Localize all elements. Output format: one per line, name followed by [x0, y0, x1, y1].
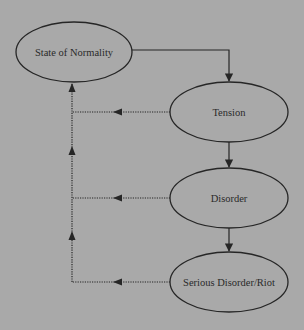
edge-normality-to-tension	[132, 50, 229, 81]
node-state-of-normality: State of Normality	[16, 22, 132, 82]
arrow-up-icon	[69, 146, 76, 155]
node-disorder: Disorder	[170, 168, 288, 228]
node-label: Serious Disorder/Riot	[183, 277, 275, 288]
arrow-left-icon	[113, 279, 122, 286]
arrow-up-icon	[69, 231, 76, 240]
escalation-flow-diagram: State of Normality Tension Disorder Seri…	[0, 0, 304, 330]
node-label: Disorder	[211, 193, 248, 204]
node-label: State of Normality	[35, 47, 114, 58]
arrow-left-icon	[113, 109, 122, 116]
arrow-up-icon	[69, 83, 76, 92]
node-serious-disorder-riot: Serious Disorder/Riot	[170, 252, 288, 312]
node-tension: Tension	[170, 82, 288, 142]
node-label: Tension	[212, 107, 246, 118]
arrow-left-icon	[113, 195, 122, 202]
feedback-arrowheads	[69, 83, 123, 286]
